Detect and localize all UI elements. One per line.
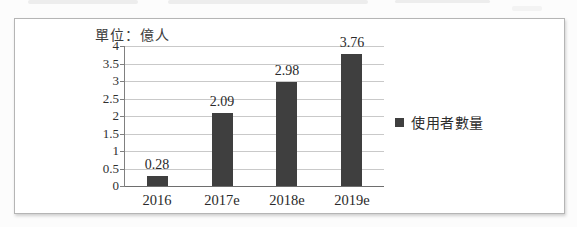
x-tick-label: 2019e bbox=[320, 192, 384, 208]
scan-artifact bbox=[168, 0, 368, 4]
y-tick-label: 0.5 bbox=[77, 161, 119, 177]
bar bbox=[212, 113, 233, 186]
y-tick-label: 0 bbox=[77, 178, 119, 194]
bar bbox=[276, 82, 297, 186]
bar-value-label: 0.28 bbox=[127, 157, 187, 173]
y-tick-label: 2.5 bbox=[77, 91, 119, 107]
y-tick-label: 4 bbox=[77, 38, 119, 54]
legend-marker-icon bbox=[395, 118, 404, 127]
x-tick-label: 2018e bbox=[255, 192, 319, 208]
bar-value-label: 2.98 bbox=[257, 63, 317, 79]
bar bbox=[341, 54, 362, 186]
y-tick-label: 1 bbox=[77, 143, 119, 159]
y-tick-label: 3 bbox=[77, 73, 119, 89]
y-tick-label: 3.5 bbox=[77, 56, 119, 72]
bar-value-label: 2.09 bbox=[192, 94, 252, 110]
legend: 使用者數量 bbox=[395, 112, 484, 132]
scan-artifact bbox=[28, 0, 138, 4]
bar bbox=[147, 176, 168, 186]
bar-value-label: 3.76 bbox=[322, 35, 382, 51]
y-axis-line bbox=[124, 46, 125, 187]
legend-label: 使用者數量 bbox=[411, 112, 484, 132]
x-tick-label: 2017e bbox=[190, 192, 254, 208]
gridline bbox=[125, 186, 384, 187]
page-background: 單位：億人 00.511.522.533.540.2820162.092017e… bbox=[0, 0, 577, 227]
scan-artifact bbox=[512, 6, 542, 11]
plot-area: 00.511.522.533.540.2820162.092017e2.9820… bbox=[125, 46, 384, 186]
chart-panel: 單位：億人 00.511.522.533.540.2820162.092017e… bbox=[14, 18, 565, 214]
y-tick-label: 1.5 bbox=[77, 126, 119, 142]
y-tick-label: 2 bbox=[77, 108, 119, 124]
scan-artifact bbox=[395, 0, 490, 3]
x-tick-label: 2016 bbox=[125, 192, 189, 208]
